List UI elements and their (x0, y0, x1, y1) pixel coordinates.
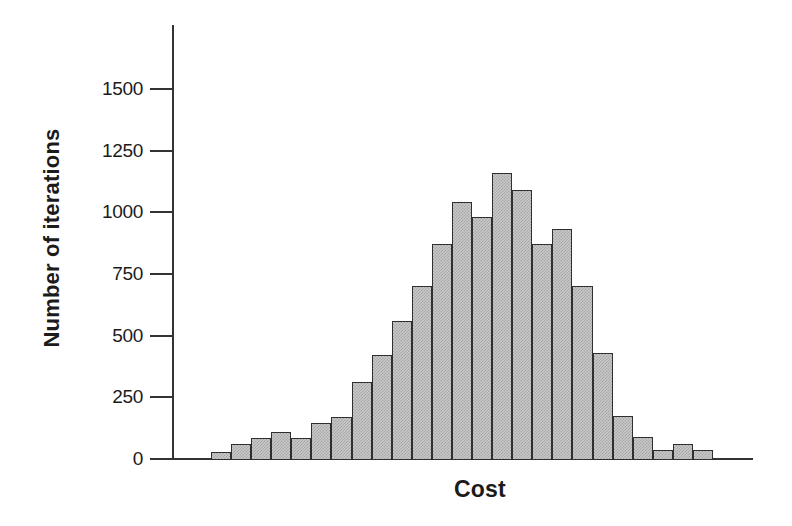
histogram-bar (372, 355, 392, 460)
y-tick-mark (150, 335, 174, 337)
y-tick-label: 0 (60, 448, 143, 470)
histogram-figure: Number of iterations Cost 02505007501000… (0, 0, 792, 526)
histogram-bar (613, 416, 633, 460)
histogram-bar (673, 444, 693, 460)
y-tick-mark (150, 458, 174, 460)
y-tick-mark (150, 273, 174, 275)
histogram-bar (271, 432, 291, 460)
y-tick-label: 250 (60, 386, 143, 408)
histogram-bar (653, 450, 673, 460)
y-tick-mark (150, 211, 174, 213)
histogram-bar (251, 438, 271, 460)
y-tick-label: 1000 (60, 201, 143, 223)
y-tick-label: 750 (60, 263, 143, 285)
histogram-bar (291, 438, 311, 460)
y-tick-label: 1500 (60, 78, 143, 100)
histogram-bar (231, 444, 251, 460)
y-tick-label: 500 (60, 325, 143, 347)
histogram-bar (392, 321, 412, 460)
histogram-bar (633, 437, 653, 460)
y-axis-line (172, 25, 174, 460)
histogram-bar (492, 173, 512, 460)
histogram-bar (211, 452, 231, 460)
y-tick-mark (150, 396, 174, 398)
histogram-bar (412, 286, 432, 460)
histogram-bar (432, 244, 452, 460)
histogram-bar (331, 417, 351, 460)
y-tick-mark (150, 88, 174, 90)
histogram-bar (452, 202, 472, 460)
histogram-bar (572, 286, 592, 460)
histogram-bar (311, 423, 331, 460)
histogram-bar (693, 450, 713, 460)
y-tick-label: 1250 (60, 140, 143, 162)
histogram-bar (593, 353, 613, 460)
histogram-bar (532, 244, 552, 460)
histogram-bar (352, 382, 372, 460)
histogram-bar (552, 229, 572, 460)
histogram-bar (512, 190, 532, 460)
x-axis-title: Cost (380, 476, 580, 503)
histogram-bar (472, 217, 492, 460)
y-tick-mark (150, 150, 174, 152)
